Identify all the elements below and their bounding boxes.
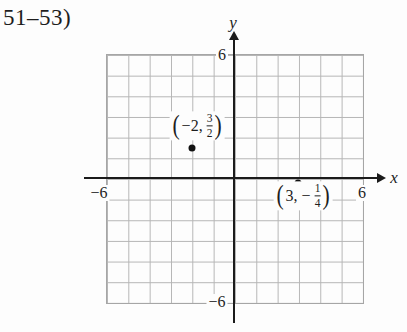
x-axis-line xyxy=(84,177,379,179)
close-paren: ) xyxy=(322,185,329,208)
minus-sign: − xyxy=(302,188,311,204)
y-axis-arrow-icon xyxy=(229,31,239,40)
fraction-denominator: 4 xyxy=(315,195,321,210)
x-axis-arrow-icon xyxy=(377,173,386,183)
exercise-number-label: 51–53) xyxy=(3,5,71,31)
y-axis-line xyxy=(233,40,235,323)
fraction-numerator: 1 xyxy=(315,182,321,195)
point-1-dot xyxy=(189,145,196,152)
open-paren: ( xyxy=(173,115,180,138)
fraction-three-halves: 3 2 xyxy=(207,112,213,139)
y-max-tick-label: 6 xyxy=(216,47,228,63)
point-1-coords-text: −2, xyxy=(182,118,203,134)
fraction-one-quarter: 1 4 xyxy=(315,182,321,209)
y-min-tick-label: −6 xyxy=(206,294,227,310)
figure-canvas: 51–53) y x 6 −6 −6 6 ( −2, 3 2 ) ( 3, − … xyxy=(0,0,407,332)
fraction-denominator: 2 xyxy=(207,125,213,140)
point-2-label: ( 3, − 1 4 ) xyxy=(274,181,333,210)
x-min-tick-label: −6 xyxy=(88,185,109,201)
x-max-tick-label: 6 xyxy=(356,185,368,201)
fraction-numerator: 3 xyxy=(207,112,213,125)
x-axis-label: x xyxy=(390,169,398,186)
close-paren: ) xyxy=(214,115,221,138)
point-2-coords-text: 3, xyxy=(286,188,298,204)
point-1-label: ( −2, 3 2 ) xyxy=(170,111,225,140)
open-paren: ( xyxy=(277,185,284,208)
coordinate-grid xyxy=(106,54,364,304)
y-axis-label: y xyxy=(229,14,237,31)
